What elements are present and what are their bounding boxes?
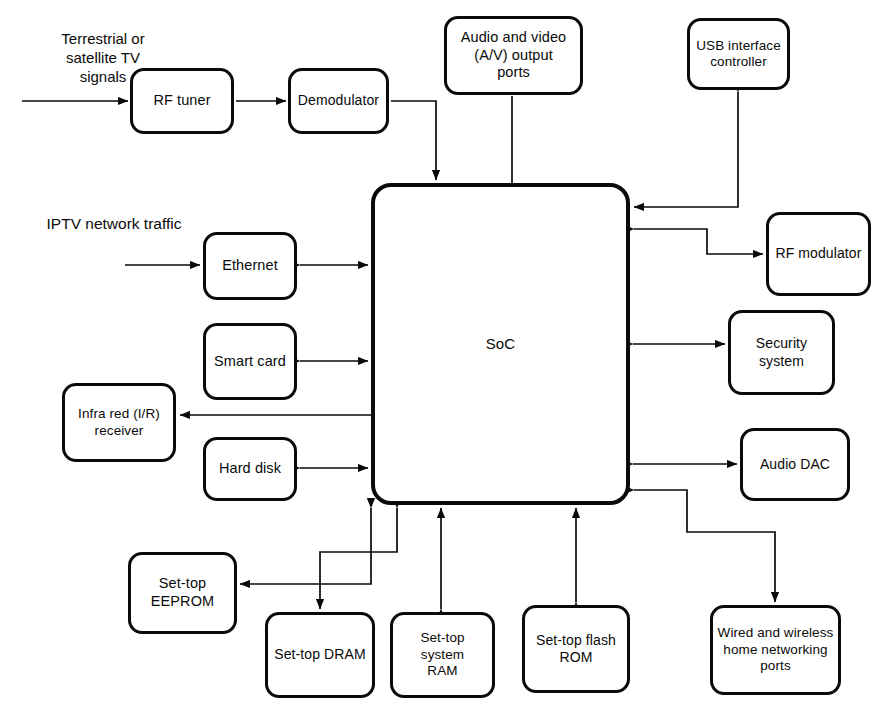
node-rf-tuner-label: RF tuner <box>149 92 214 110</box>
node-infra-red-receiver[interactable]: Infra red (I/R) receiver <box>62 383 176 462</box>
node-demodulator[interactable]: Demodulator <box>288 68 389 134</box>
label-terrestrial-satellite-input: Terrestrial or satellite TV signals <box>30 30 176 86</box>
edge-demodulator-soc <box>391 101 436 180</box>
node-set-top-eeprom[interactable]: Set-top EEPROM <box>128 552 237 634</box>
edge-soc-rf-modulator <box>634 229 763 254</box>
block-diagram-canvas: Terrestrial or satellite TV signals IPTV… <box>0 0 882 718</box>
node-soc-label: SoC <box>482 335 519 353</box>
node-soc[interactable]: SoC <box>371 183 630 505</box>
edge-usb-soc <box>634 92 738 207</box>
node-set-top-eeprom-label: Set-top EEPROM <box>147 575 218 610</box>
node-rf-modulator[interactable]: RF modulator <box>766 212 871 296</box>
node-set-top-system-ram-label: Set-top system RAM <box>393 630 492 679</box>
node-rf-modulator-label: RF modulator <box>771 245 865 262</box>
node-usb-interface-controller[interactable]: USB interface controller <box>687 18 790 90</box>
node-home-networking-ports-label: Wired and wireless home networking ports <box>714 625 838 674</box>
node-infra-red-receiver-label: Infra red (I/R) receiver <box>74 406 164 439</box>
node-audio-dac[interactable]: Audio DAC <box>740 428 850 501</box>
node-audio-video-output-ports-label: Audio and video (A/V) output ports <box>457 29 571 82</box>
node-audio-video-output-ports[interactable]: Audio and video (A/V) output ports <box>444 16 583 95</box>
node-home-networking-ports[interactable]: Wired and wireless home networking ports <box>710 605 841 695</box>
node-usb-interface-controller-label: USB interface controller <box>692 38 785 71</box>
node-set-top-system-ram[interactable]: Set-top system RAM <box>390 612 495 698</box>
node-smart-card[interactable]: Smart card <box>203 323 297 400</box>
node-security-system-label: Security system <box>752 335 811 369</box>
node-audio-dac-label: Audio DAC <box>756 456 834 473</box>
node-ethernet-label: Ethernet <box>218 257 282 275</box>
edge-soc-eeprom <box>240 508 371 584</box>
node-security-system[interactable]: Security system <box>728 310 835 395</box>
edge-soc-home-networking <box>634 490 775 602</box>
edge-soc-dram <box>320 508 397 609</box>
node-set-top-dram-label: Set-top DRAM <box>270 646 369 663</box>
node-demodulator-label: Demodulator <box>294 92 383 109</box>
node-set-top-dram[interactable]: Set-top DRAM <box>265 612 375 698</box>
node-hard-disk[interactable]: Hard disk <box>203 437 297 501</box>
label-iptv-network-traffic: IPTV network traffic <box>14 214 214 233</box>
node-smart-card-label: Smart card <box>210 353 290 371</box>
node-set-top-flash-rom-label: Set-top flash ROM <box>532 632 620 666</box>
node-set-top-flash-rom[interactable]: Set-top flash ROM <box>522 605 630 693</box>
node-hard-disk-label: Hard disk <box>215 460 285 478</box>
node-ethernet[interactable]: Ethernet <box>203 232 297 300</box>
